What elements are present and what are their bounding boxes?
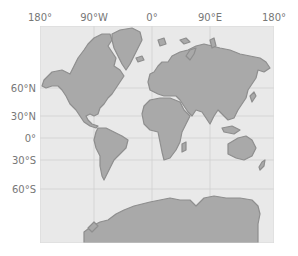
lon-label-0: 0°: [146, 12, 157, 23]
greenland: [112, 28, 142, 70]
iceland: [136, 56, 144, 62]
lat-label-60n: 60°N: [11, 83, 36, 94]
svalbard: [158, 38, 166, 46]
australia: [228, 136, 256, 160]
madagascar: [182, 142, 186, 152]
world-map[interactable]: [40, 26, 274, 243]
lat-label-equator: 0°: [25, 133, 36, 144]
lon-label-180e: 180°: [262, 12, 286, 23]
south-america: [94, 128, 128, 180]
map-canvas: [40, 26, 274, 243]
lon-label-90w: 90°W: [80, 12, 108, 23]
japan: [250, 92, 256, 102]
antarctica: [84, 196, 260, 243]
franz-josef-land: [180, 38, 190, 44]
lat-label-60s: 60°S: [12, 184, 36, 195]
north-america: [42, 34, 124, 128]
new-zealand: [259, 160, 265, 170]
indonesia: [222, 126, 240, 134]
landmasses: [42, 28, 270, 243]
lat-label-30n: 30°N: [11, 111, 36, 122]
lon-label-180w: 180°: [28, 12, 52, 23]
lon-label-90e: 90°E: [198, 12, 222, 23]
lat-label-30s: 30°S: [12, 155, 36, 166]
